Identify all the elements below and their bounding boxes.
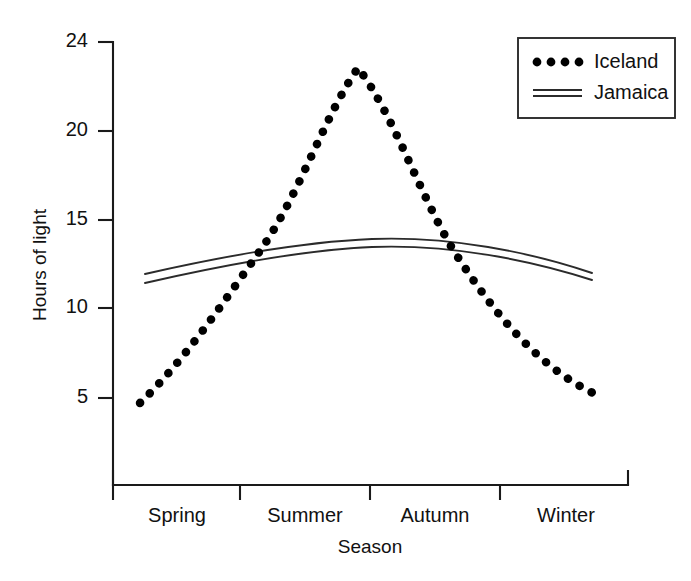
series-line-jamaica-lower bbox=[145, 247, 592, 283]
y-tick-label-20: 20 bbox=[66, 118, 88, 140]
x-category-label-summer: Summer bbox=[267, 504, 343, 526]
y-tick-label-5: 5 bbox=[77, 385, 88, 407]
chart-figure: 24 20 15 10 5 Hours of light Spring Summ… bbox=[0, 0, 691, 581]
y-axis-title: Hours of light bbox=[29, 208, 50, 321]
hours-of-light-line-chart: 24 20 15 10 5 Hours of light Spring Summ… bbox=[0, 0, 691, 581]
x-axis-title: Season bbox=[338, 536, 402, 557]
chart-legend: Iceland Jamaica bbox=[518, 38, 675, 118]
x-category-label-spring: Spring bbox=[148, 504, 206, 526]
legend-label-jamaica: Jamaica bbox=[594, 81, 669, 103]
x-category-label-autumn: Autumn bbox=[401, 504, 470, 526]
y-tick-label-24: 24 bbox=[66, 29, 88, 51]
y-tick-label-10: 10 bbox=[66, 295, 88, 317]
x-category-label-winter: Winter bbox=[537, 504, 595, 526]
y-tick-label-15: 15 bbox=[66, 207, 88, 229]
legend-label-iceland: Iceland bbox=[594, 50, 659, 72]
